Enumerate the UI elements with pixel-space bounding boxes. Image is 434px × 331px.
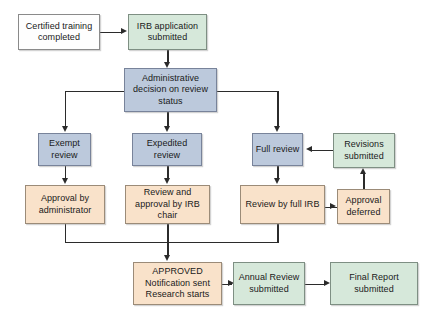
arrowhead-merge-to-approved [164, 255, 170, 261]
node-revisions-submitted-label: Revisions submitted [336, 139, 392, 162]
node-approval-administrator-label: Approval by administrator [28, 193, 102, 216]
arrowhead-decision-to-full [274, 126, 280, 132]
node-approved-label-line3: Research starts [136, 289, 219, 301]
node-review-full-irb[interactable]: Review by full IRB [240, 185, 325, 224]
connector-deferred-to-revisions [363, 174, 364, 189]
node-annual-review-label: Annual Review submitted [236, 272, 302, 295]
node-administrative-decision-label: Administrative decision on review status [127, 73, 214, 108]
node-administrative-decision[interactable]: Administrative decision on review status [124, 68, 217, 112]
connector-revisions-to-full-review [312, 150, 333, 151]
node-final-report-label: Final Report submitted [333, 272, 415, 295]
node-revisions-submitted[interactable]: Revisions submitted [333, 133, 395, 168]
connector-administrator-drop [65, 224, 66, 242]
arrowhead-full-irb-to-deferred [330, 203, 336, 209]
node-approval-deferred[interactable]: Approval deferred [337, 189, 390, 224]
node-full-review[interactable]: Full review [252, 133, 303, 166]
node-irb-application[interactable]: IRB application submitted [128, 14, 207, 50]
node-approved-label-line2: Notification sent [136, 278, 219, 290]
node-irb-application-label: IRB application submitted [131, 21, 204, 44]
node-expedited-review-label: Expedited review [135, 138, 199, 161]
arrowhead-expedited-to-chair [164, 178, 170, 184]
node-approval-irb-chair[interactable]: Review and approval by IRB chair [125, 185, 210, 224]
connector-decision-to-full-vertical [277, 91, 278, 127]
arrowhead-deferred-to-revisions [360, 168, 366, 174]
arrowhead-revisions-to-full-review [306, 146, 312, 152]
node-certified-training[interactable]: Certified training completed [18, 14, 100, 50]
flowchart-canvas: Certified training completed IRB applica… [0, 0, 434, 331]
node-certified-training-label: Certified training completed [21, 21, 97, 44]
connector-merge-bus [65, 242, 279, 243]
node-final-report[interactable]: Final Report submitted [330, 262, 418, 305]
connector-full-irb-drop [277, 224, 278, 242]
node-exempt-review-label: Exempt review [41, 138, 88, 161]
node-approved-label-line1: APPROVED [136, 266, 219, 278]
node-review-full-irb-label: Review by full IRB [243, 199, 322, 211]
connector-annual-review-to-final-report [305, 284, 325, 285]
connector-decision-to-exempt-vertical [65, 91, 66, 127]
node-full-review-label: Full review [255, 144, 300, 156]
node-expedited-review[interactable]: Expedited review [132, 133, 202, 166]
connector-decision-right-bus [217, 91, 278, 92]
connector-chair-drop-to-approved [167, 224, 168, 256]
connector-training-to-application [100, 32, 121, 33]
arrowhead-training-to-application [121, 28, 127, 34]
node-approved[interactable]: APPROVED Notification sent Research star… [133, 262, 222, 305]
node-approval-deferred-label: Approval deferred [340, 195, 387, 218]
node-exempt-review[interactable]: Exempt review [38, 133, 91, 166]
node-approval-irb-chair-label: Review and approval by IRB chair [128, 187, 207, 222]
arrowhead-decision-to-exempt [62, 126, 68, 132]
arrowhead-exempt-to-approval [62, 178, 68, 184]
node-approval-administrator[interactable]: Approval by administrator [25, 185, 105, 224]
connector-decision-left-bus [65, 91, 125, 92]
arrowhead-decision-to-expedited [164, 126, 170, 132]
arrowhead-full-review-to-full-irb [274, 178, 280, 184]
node-annual-review[interactable]: Annual Review submitted [233, 262, 305, 305]
connector-decision-to-expedited-vertical [167, 112, 168, 127]
